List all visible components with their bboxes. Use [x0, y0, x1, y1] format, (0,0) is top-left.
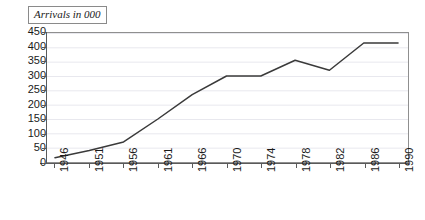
x-axis-tick-label: 1961	[163, 148, 174, 172]
chart-title: Arrivals in 000	[28, 6, 107, 24]
x-axis-tick-label: 1978	[301, 148, 312, 172]
arrivals-line-chart: Arrivals in 000 050100150200250300350400…	[0, 0, 425, 220]
x-axis-tick-label: 1966	[197, 148, 208, 172]
x-axis-tick-label: 1951	[94, 148, 105, 172]
x-axis-tick-label: 1982	[335, 148, 346, 172]
x-axis-tick-label: 1986	[370, 148, 381, 172]
x-axis-tick-label: 1956	[128, 148, 139, 172]
x-axis-tick-label: 1974	[266, 148, 277, 172]
x-axis-tick-label: 1970	[232, 148, 243, 172]
x-axis-tick-label: 1946	[59, 148, 70, 172]
x-axis-tick-labels: 1946195119561961196619701974197819821986…	[0, 0, 425, 220]
x-axis-tick-label: 1990	[404, 148, 415, 172]
